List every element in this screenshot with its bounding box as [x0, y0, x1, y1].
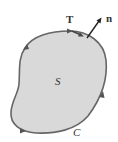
surface-region-diagram: T n S C	[0, 0, 118, 142]
normal-vector	[87, 21, 99, 38]
tangent-label: T	[66, 14, 73, 25]
normal-label: n	[106, 13, 112, 24]
diagram-canvas	[0, 0, 118, 142]
region-label: S	[55, 76, 61, 87]
curve-label: C	[73, 127, 80, 138]
